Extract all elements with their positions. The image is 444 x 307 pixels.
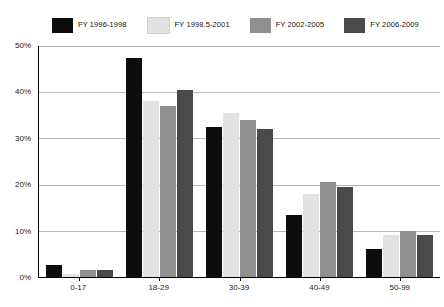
plot-area xyxy=(38,46,440,278)
legend-item[interactable]: FY 1996-1998 xyxy=(52,18,127,33)
bar[interactable] xyxy=(240,120,256,277)
x-tick-label: 40-49 xyxy=(279,284,359,298)
y-axis: 0%10%20%30%40%50% xyxy=(0,46,34,278)
legend-label: FY 2002-2005 xyxy=(276,21,325,29)
bar[interactable] xyxy=(177,90,193,277)
y-tick-label: 0% xyxy=(19,274,31,282)
bar[interactable] xyxy=(383,235,399,277)
x-axis-tick xyxy=(79,277,80,281)
bar[interactable] xyxy=(257,129,273,277)
y-tick-label: 30% xyxy=(15,135,31,143)
bar-group xyxy=(39,46,119,277)
bar[interactable] xyxy=(46,265,62,277)
bar-groups xyxy=(39,46,440,277)
bar[interactable] xyxy=(303,194,319,277)
bar-chart: FY 1996-1998FY 1998.5-2001FY 2002-2005FY… xyxy=(0,0,444,307)
bar[interactable] xyxy=(366,249,382,277)
bar[interactable] xyxy=(97,270,113,277)
bar[interactable] xyxy=(143,101,159,277)
bar-group xyxy=(119,46,199,277)
legend-label: FY 1996-1998 xyxy=(78,21,127,29)
bar[interactable] xyxy=(223,113,239,277)
bar[interactable] xyxy=(320,182,336,277)
legend-item[interactable]: FY 2002-2005 xyxy=(250,18,325,33)
x-axis: 0-1718-2930-3940-4950-99 xyxy=(38,284,440,298)
bar[interactable] xyxy=(400,231,416,277)
x-axis-tick xyxy=(240,277,241,281)
bar[interactable] xyxy=(206,127,222,277)
legend-swatch-icon xyxy=(344,18,365,33)
x-tick-label: 0-17 xyxy=(38,284,118,298)
x-axis-tick xyxy=(320,277,321,281)
legend-label: FY 1998.5-2001 xyxy=(175,21,230,29)
y-tick-label: 10% xyxy=(15,228,31,236)
bar[interactable] xyxy=(286,215,302,277)
y-tick-label: 40% xyxy=(15,88,31,96)
x-axis-tick xyxy=(400,277,401,281)
legend-swatch-icon xyxy=(52,18,73,33)
legend-swatch-icon xyxy=(250,18,271,33)
bar[interactable] xyxy=(417,235,433,277)
x-tick-label: 50-99 xyxy=(360,284,440,298)
chart-legend: FY 1996-1998FY 1998.5-2001FY 2002-2005FY… xyxy=(0,16,444,34)
x-tick-label: 18-29 xyxy=(118,284,198,298)
bar[interactable] xyxy=(80,270,96,277)
bar[interactable] xyxy=(63,274,79,277)
x-axis-tick xyxy=(159,277,160,281)
bar-group xyxy=(199,46,279,277)
bar[interactable] xyxy=(126,58,142,277)
legend-label: FY 2006-2009 xyxy=(370,21,419,29)
legend-item[interactable]: FY 2006-2009 xyxy=(344,18,419,33)
y-tick-label: 50% xyxy=(15,42,31,50)
plot-wrapper: 0%10%20%30%40%50% xyxy=(0,46,444,278)
bar[interactable] xyxy=(337,187,353,277)
x-tick-label: 30-39 xyxy=(199,284,279,298)
legend-swatch-icon xyxy=(147,17,170,34)
bar-group xyxy=(280,46,360,277)
bar-group xyxy=(360,46,440,277)
legend-item[interactable]: FY 1998.5-2001 xyxy=(147,17,230,34)
y-tick-label: 20% xyxy=(15,181,31,189)
bar[interactable] xyxy=(160,106,176,277)
